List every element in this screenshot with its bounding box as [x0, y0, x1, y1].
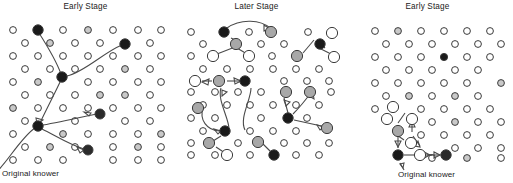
grid-dots	[10, 27, 165, 164]
original-knower-label: Original knower	[2, 169, 59, 178]
knower-node	[120, 39, 130, 49]
knower-node	[219, 27, 229, 37]
knower-node	[83, 145, 93, 155]
panel-early-stage-right: Early Stage	[342, 0, 513, 183]
knower-node	[57, 72, 67, 82]
knower-node	[95, 109, 105, 119]
panel-later-stage: Later Stage	[171, 0, 342, 183]
unaware-node	[328, 51, 339, 62]
partial-node	[192, 102, 203, 113]
diffusion-of-knowledge-figure: Early Stage	[0, 0, 513, 183]
panel-middle-graphic	[171, 0, 342, 183]
knower-node	[220, 126, 230, 136]
unaware-node	[207, 50, 218, 61]
knower-node	[315, 39, 325, 49]
partial-node	[265, 26, 276, 37]
unaware-node	[243, 50, 254, 61]
unaware-node	[405, 137, 416, 148]
partial-node	[392, 125, 403, 136]
panel-left-graphic	[0, 0, 171, 183]
original-knower-node	[393, 150, 403, 160]
unaware-node	[387, 101, 398, 112]
unaware-node	[221, 149, 232, 160]
knower-node	[240, 76, 250, 86]
partial-node	[280, 86, 291, 97]
knower-node	[33, 25, 43, 35]
partial-node	[252, 136, 263, 147]
partial-node	[213, 75, 224, 86]
original-knower-label: Original knower	[398, 170, 455, 179]
partial-node	[203, 137, 214, 148]
knower-node	[440, 53, 447, 60]
unaware-node	[326, 27, 337, 38]
knower-node	[283, 113, 293, 123]
panel-early-stage-left: Early Stage	[0, 0, 171, 183]
unaware-node	[189, 75, 200, 86]
knower-node	[269, 150, 279, 160]
partial-node	[304, 86, 315, 97]
partial-node	[291, 50, 302, 61]
unaware-node	[406, 113, 417, 124]
panel-right-graphic	[342, 0, 513, 183]
partial-node	[230, 38, 241, 49]
unaware-node	[414, 149, 425, 160]
unaware-node	[381, 113, 392, 124]
grid-dots	[372, 28, 505, 162]
partial-node	[321, 122, 332, 133]
original-knower-node	[33, 121, 43, 131]
knower-node	[441, 150, 451, 160]
